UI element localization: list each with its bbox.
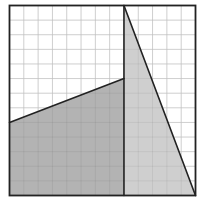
shaded-regions — [10, 6, 196, 196]
grid-area-diagram — [0, 0, 204, 206]
